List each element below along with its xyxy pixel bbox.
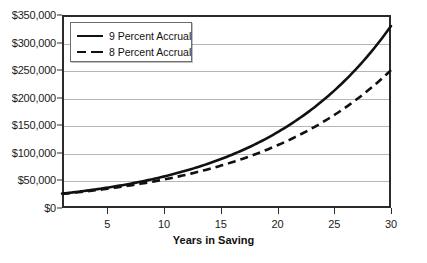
legend-label-8-percent: 8 Percent Accrual (109, 46, 191, 58)
legend-label-9-percent: 9 Percent Accrual (109, 30, 191, 42)
legend: 9 Percent Accrual 8 Percent Accrual (70, 22, 192, 62)
series-lines (0, 0, 427, 263)
series-line-8-percent (62, 70, 391, 194)
legend-dashed-line-icon (77, 47, 103, 57)
legend-item-8-percent: 8 Percent Accrual (77, 44, 185, 59)
legend-item-9-percent: 9 Percent Accrual (77, 28, 185, 43)
legend-solid-line-icon (77, 31, 103, 41)
savings-growth-chart: $0$50,000$100,000$150,000$200,000$250,00… (0, 0, 427, 263)
